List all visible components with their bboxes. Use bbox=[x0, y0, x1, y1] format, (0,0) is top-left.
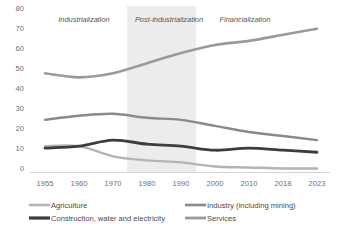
legend-label-construction: Construction, water and electricity bbox=[51, 214, 165, 223]
y-tick-label: 40 bbox=[16, 84, 24, 93]
y-tick-label: 50 bbox=[16, 64, 24, 73]
y-tick-label: 0 bbox=[20, 164, 24, 173]
era-label-post-industrialization: Post-industrialization bbox=[135, 15, 203, 24]
x-tick-label: 2010 bbox=[241, 179, 258, 188]
y-tick-label: 70 bbox=[16, 24, 24, 33]
x-tick-label: 1960 bbox=[71, 179, 88, 188]
x-tick-label: 1990 bbox=[173, 179, 190, 188]
era-annotations: Industrialization Post-industrialization… bbox=[58, 15, 270, 24]
y-tick-label: 10 bbox=[16, 144, 24, 153]
legend-label-agriculture: Agriculture bbox=[51, 201, 87, 210]
era-label-financialization: Financialization bbox=[220, 15, 271, 24]
x-tick-label: 1955 bbox=[37, 179, 54, 188]
x-tick-label: 1970 bbox=[105, 179, 122, 188]
x-tick-label: 1980 bbox=[139, 179, 156, 188]
y-tick-label: 20 bbox=[16, 124, 24, 133]
legend-label-industry: Industry (including mining) bbox=[207, 201, 296, 210]
x-tick-label: 2023 bbox=[309, 179, 326, 188]
line-chart: 80 70 60 50 40 30 20 10 0 Industrializat… bbox=[0, 0, 337, 229]
y-tick-label: 30 bbox=[16, 104, 24, 113]
x-axis: 1955 1960 1970 1980 1990 2000 2010 2018 … bbox=[37, 179, 326, 188]
y-tick-label: 60 bbox=[16, 44, 24, 53]
y-tick-label: 80 bbox=[16, 4, 24, 13]
era-label-industrialization: Industrialization bbox=[58, 15, 109, 24]
y-axis: 80 70 60 50 40 30 20 10 0 bbox=[16, 4, 24, 173]
legend-label-services: Services bbox=[207, 214, 236, 223]
x-tick-label: 2018 bbox=[275, 179, 292, 188]
x-tick-label: 2000 bbox=[207, 179, 224, 188]
